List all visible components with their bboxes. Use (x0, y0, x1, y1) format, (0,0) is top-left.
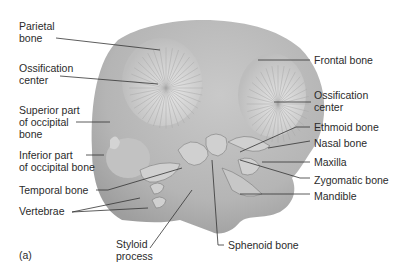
label-styloid-process: Styloid process (116, 238, 153, 262)
label-ossification-center-left: Ossification center (19, 62, 73, 86)
label-ossification-center-right: Ossification center (314, 89, 368, 113)
label-frontal-bone: Frontal bone (314, 54, 373, 66)
label-temporal-bone: Temporal bone (19, 184, 88, 196)
label-vertebrae: Vertebrae (19, 205, 65, 217)
label-sphenoid-bone: Sphenoid bone (228, 239, 299, 251)
label-nasal-bone: Nasal bone (314, 137, 367, 149)
label-parietal-bone: Parietal bone (19, 20, 55, 44)
label-inferior-occipital: Inferior part of occipital bone (19, 149, 95, 173)
label-mandible: Mandible (314, 190, 357, 202)
label-superior-occipital: Superior part of occipital bone (19, 104, 80, 140)
label-ethmoid-bone: Ethmoid bone (314, 121, 379, 133)
label-maxilla: Maxilla (314, 156, 347, 168)
panel-label: (a) (19, 249, 32, 261)
label-zygomatic-bone: Zygomatic bone (314, 174, 389, 186)
